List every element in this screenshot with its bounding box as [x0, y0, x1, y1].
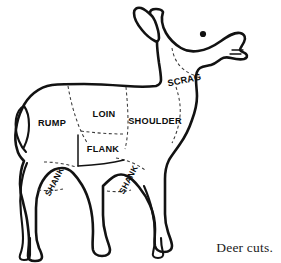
deer-cuts-figure: RUMP LOIN SHOULDER FLANK SCRAG SHANK SHA… — [0, 0, 281, 263]
cut-label-shoulder: SHOULDER — [128, 116, 182, 126]
cut-label-flank: FLANK — [87, 144, 119, 154]
cut-label-rump: RUMP — [38, 118, 66, 128]
deer-diagram-canvas: RUMP LOIN SHOULDER FLANK SCRAG SHANK SHA… — [0, 0, 281, 263]
deer-body-path — [15, 9, 247, 261]
deer-body-outline — [15, 8, 247, 261]
deer-eye-icon — [200, 31, 206, 37]
figure-caption: Deer cuts. — [216, 240, 273, 256]
cut-label-loin: LOIN — [93, 109, 116, 119]
